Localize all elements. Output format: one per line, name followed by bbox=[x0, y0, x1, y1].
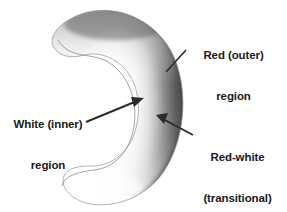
label-red-outer-region: Red (outer) region bbox=[182, 22, 285, 130]
label-red-white-line-1: Red-white bbox=[190, 151, 285, 165]
arrow-white-inner bbox=[86, 97, 144, 122]
figure-container: Red (outer) region White (inner) region … bbox=[0, 0, 287, 212]
label-red-outer-line-2: region bbox=[182, 90, 285, 104]
label-white-inner-line-2: region bbox=[2, 159, 94, 173]
top-horn-shadow bbox=[64, 8, 168, 40]
label-red-white-transitional-region: Red-white (transitional) region bbox=[190, 124, 285, 212]
label-red-white-line-2: (transitional) bbox=[190, 192, 285, 206]
label-white-inner-line-1: White (inner) bbox=[2, 118, 94, 132]
label-red-outer-line-1: Red (outer) bbox=[182, 49, 285, 63]
label-white-inner-region: White (inner) region bbox=[2, 91, 94, 199]
